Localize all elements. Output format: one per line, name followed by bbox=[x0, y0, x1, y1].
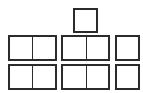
row2-left-group bbox=[8, 64, 57, 90]
row1-left-group bbox=[8, 35, 57, 61]
row2-right-box bbox=[115, 64, 140, 90]
row2-middle-group bbox=[61, 64, 110, 90]
top-box bbox=[73, 8, 98, 33]
cell-divider bbox=[86, 37, 87, 59]
cell-divider bbox=[32, 37, 33, 59]
row1-middle-group bbox=[61, 35, 110, 61]
cell-divider bbox=[86, 66, 87, 88]
row1-right-box bbox=[115, 35, 140, 61]
cell-divider bbox=[32, 66, 33, 88]
